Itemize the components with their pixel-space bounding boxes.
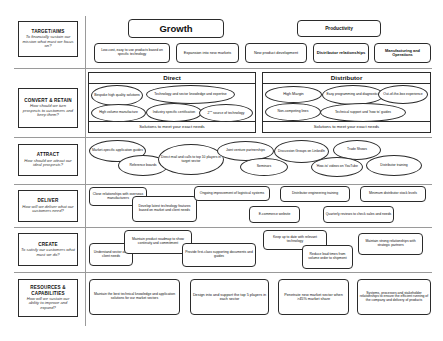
direct-item-bespoke-solutions: Bespoke high quality solutions [91, 85, 143, 106]
distributor-item-out-of-box-experience: Out-of-the-box experience [378, 85, 428, 104]
direct-item-label: Technology and sector knowledge and expe… [154, 93, 226, 97]
distributor-item-label: Non-competing lines [278, 110, 309, 114]
deliver-item-label: Ongoing improvement of logistical system… [200, 192, 264, 196]
resources-item-systems-processes: Systems, processes and stakeholder relat… [357, 279, 431, 315]
distributor-item-technical-support: Technical support and 'how to' guides [320, 103, 406, 122]
resources-item-label: Design into and support the top 5 player… [192, 293, 267, 301]
create-item-label: Keep up to date with relevant technology [265, 236, 325, 243]
target-item-low-cost-products: Low-cost, easy to use products based on … [94, 43, 170, 63]
attract-item-label: Direct mail and calls to top 10 players … [160, 156, 222, 163]
direct-footer-label: Solutions to meet your exact needs [88, 121, 256, 133]
resources-item-penetrate-new-market: Penetrate new market sector when >45% ma… [278, 279, 349, 315]
create-item-label: Reduce lead times from volume order to s… [304, 253, 351, 260]
create-item-strategic-partnerships: Maintain strong relationships with strat… [358, 233, 423, 255]
attract-item-direct-mail-calls: Direct mail and calls to top 10 players … [158, 144, 224, 175]
deliver-item-develop-latest-technology: Develop latest technology features based… [132, 196, 197, 222]
row-label-create: CREATE To satisfy our customers what mus… [18, 233, 78, 266]
attract-item-youtube-videos: 'How-to' videos on YouTube [311, 157, 363, 177]
deliver-item-label: Quarterly reviews to check sales and nee… [326, 213, 392, 217]
deliver-item-ecommerce-website: E-commerce website [249, 206, 300, 223]
distributor-header-label: Distributor [262, 72, 431, 84]
deliver-item-minimum-stock-levels: Minimum distributor stock levels [360, 186, 426, 202]
row-label-heading: ATTRACT [37, 152, 59, 157]
deliver-item-label: Develop latest technology features based… [134, 205, 195, 212]
row-label-subtext: How will we deliver what our customers n… [21, 205, 75, 214]
row-label-subtext: How should we attract our ideal prospect… [21, 159, 75, 168]
create-item-label: Provide first-class supporting documents… [184, 251, 254, 258]
row-label-subtext: How will we sustain our ability to impro… [21, 297, 75, 311]
target-item-manufacturing-operations: Manufacturing and Operations [374, 43, 431, 63]
row-divider [14, 227, 432, 228]
distributor-item-label: Technical support and 'how to' guides [335, 111, 391, 115]
direct-item-label: High volume manufacture [99, 111, 138, 115]
resources-item-label: Systems, processes and stakeholder relat… [359, 292, 429, 303]
row-label-heading: RESOURCES & CAPABILITIES [21, 285, 75, 296]
pillar-growth: Growth [128, 19, 224, 38]
distributor-item-label: High Margin [283, 93, 303, 97]
distributor-item-label: Out-of-the-box experience [383, 93, 422, 97]
row-label-subtext: To financially sustain our mission what … [21, 35, 75, 49]
attract-item-label: Seminars [257, 165, 271, 169]
deliver-item-label: E-commerce website [259, 213, 291, 217]
deliver-item-ongoing-logistics-improvement: Ongoing improvement of logistical system… [194, 186, 270, 201]
direct-item-industry-certification: Industry specific certification [146, 103, 202, 122]
deliver-item-label: Distributor engineering training [292, 192, 338, 196]
target-item-distributor-relationships: Distributor relationships [313, 43, 369, 63]
row-divider [14, 137, 432, 138]
direct-item-label: Industry specific certification [153, 111, 195, 115]
strategy-map-diagram: TARGET/AIMS To financially sustain our m… [0, 0, 443, 341]
attract-item-seminars: Seminars [240, 158, 288, 176]
attract-item-label: Trade Shows [347, 148, 367, 152]
target-item-expansion-new-markets: Expansion into new markets [176, 43, 239, 63]
row-divider [14, 272, 432, 273]
attract-item-label: Reference boards [130, 164, 157, 168]
distributor-footer-label: Solutions to meet your exact needs [262, 121, 431, 133]
resources-item-technical-knowledge: Maintain the best technical knowledge an… [89, 279, 180, 315]
attract-item-label: Distributor training [380, 164, 408, 168]
attract-item-label: Discussion Groups on LinkedIn [278, 150, 325, 154]
deliver-item-label: Minimum distributor stock levels [369, 192, 417, 196]
pillar-label: Productivity [325, 26, 353, 31]
pillar-label: Growth [159, 24, 192, 34]
target-item-label: Low-cost, easy to use products based on … [96, 49, 168, 56]
attract-item-label: Joint venture partnerships [226, 149, 265, 153]
distributor-title: Distributor [331, 75, 363, 82]
target-item-label: Manufacturing and Operations [376, 49, 429, 57]
resources-item-label: Maintain the best technical knowledge an… [91, 293, 178, 300]
attract-item-label: 'How-to' videos on YouTube [316, 165, 358, 169]
distributor-item-high-margin: High Margin [265, 86, 322, 103]
target-item-label: Expansion into new markets [184, 51, 232, 55]
row-label-subtext: To satisfy our customers what must we do… [21, 248, 75, 257]
distributor-item-easy-programming: Easy programming and diagnostics [322, 85, 384, 105]
direct-footer-text: Solutions to meet your exact needs [139, 125, 204, 130]
row-label-attract: ATTRACT How should we attract our ideal … [18, 144, 78, 176]
direct-item-label: 2nd source of technology [208, 111, 245, 116]
direct-item-technology-knowledge: Technology and sector knowledge and expe… [146, 85, 235, 104]
target-item-new-product-development: New product development [245, 43, 307, 63]
row-label-heading: DELIVER [38, 198, 59, 203]
create-item-first-class-documents: Provide first-class supporting documents… [182, 243, 256, 267]
row-label-target-aims: TARGET/AIMS To financially sustain our m… [18, 21, 78, 57]
direct-item-label: Bespoke high quality solutions [94, 94, 140, 98]
row-label-deliver: DELIVER How will we deliver what our cus… [18, 190, 78, 222]
row-divider [14, 184, 432, 185]
resources-item-design-into-top5: Design into and support the top 5 player… [190, 279, 269, 315]
row-label-resources-capabilities: RESOURCES & CAPABILITIES How will we sus… [18, 279, 78, 317]
direct-item-second-source-technology: 2nd source of technology [199, 104, 253, 122]
deliver-item-quarterly-reviews: Quarterly reviews to check sales and nee… [323, 206, 394, 223]
deliver-item-distributor-engineering-training: Distributor engineering training [280, 186, 350, 202]
distributor-item-non-competing-lines: Non-competing lines [265, 103, 321, 121]
distributor-item-label: Easy programming and diagnostics [327, 93, 380, 97]
create-item-reduce-lead-times: Reduce lead times from volume order to s… [302, 245, 353, 269]
target-item-label: New product development [254, 51, 298, 55]
column-divider [85, 16, 86, 326]
row-divider [14, 68, 432, 69]
create-item-label: Maintain product roadmap to show continu… [126, 238, 190, 245]
pillar-productivity: Productivity [297, 20, 381, 37]
direct-item-high-volume-manufacture: High volume manufacture [91, 104, 146, 122]
resources-item-label: Penetrate new market sector when >45% ma… [280, 293, 347, 301]
row-label-convert-retain: CONVERT & RETAIN How should we turn pros… [18, 88, 78, 128]
distributor-footer-text: Solutions to meet your exact needs [314, 125, 379, 130]
row-label-subtext: How should we turn prospects to customer… [21, 104, 75, 118]
attract-item-distributor-training: Distributor training [366, 155, 422, 176]
